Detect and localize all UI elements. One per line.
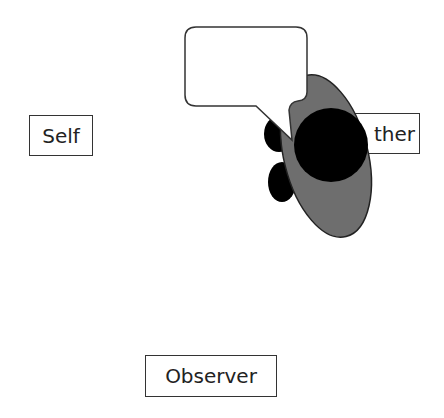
figure-head — [294, 108, 368, 182]
observer-label-box: Observer — [145, 355, 277, 397]
observer-label: Observer — [165, 364, 257, 388]
speech-bubble — [185, 27, 307, 140]
